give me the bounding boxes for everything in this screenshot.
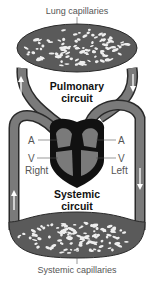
capillary-gap — [70, 57, 73, 60]
left-side-label: Left — [111, 165, 128, 176]
pulmonary-circuit-label-line1: Pulmonary — [50, 80, 104, 92]
circulation-diagram: Lung capillaries Pulmonary circuit — [0, 0, 155, 282]
systemic-circuit-label-line2: circuit — [61, 200, 93, 212]
right-ventricle-label: V — [28, 153, 35, 164]
left-ventricle-label: V — [118, 153, 125, 164]
right-atrium-chamber — [56, 128, 72, 148]
right-atrium-label: A — [28, 135, 35, 146]
pulmonary-circuit-label-line2: circuit — [61, 92, 93, 104]
systemic-capillaries-label: Systemic capillaries — [37, 265, 117, 275]
heart — [50, 119, 104, 188]
lung-capillary-bed — [17, 24, 137, 72]
left-atrium-label: A — [118, 135, 125, 146]
right-side-label: Right — [25, 165, 49, 176]
capillary-gap — [64, 63, 69, 65]
left-atrium-chamber — [82, 128, 98, 148]
systemic-circuit-label-line1: Systemic — [54, 188, 100, 200]
lung-capillaries-label: Lung capillaries — [46, 6, 109, 16]
